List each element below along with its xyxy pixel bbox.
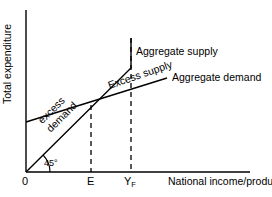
x-axis-title: National income/product <box>168 176 272 187</box>
keynesian-cross-chart: Total expenditure National income/produc… <box>0 0 272 197</box>
angle-label: 45° <box>44 159 58 168</box>
x-tick-label-origin: 0 <box>22 176 28 187</box>
x-tick-label-full-employment: YF <box>124 176 136 187</box>
chart-plot-area <box>0 0 272 197</box>
aggregate-supply-label: Aggregate supply <box>136 46 218 57</box>
aggregate-demand-label: Aggregate demand <box>172 72 261 83</box>
x-tick-label-equilibrium: E <box>87 176 94 187</box>
y-axis-title: Total expenditure <box>2 24 13 104</box>
x-tick-label-full-employment-subscript: F <box>131 180 136 189</box>
